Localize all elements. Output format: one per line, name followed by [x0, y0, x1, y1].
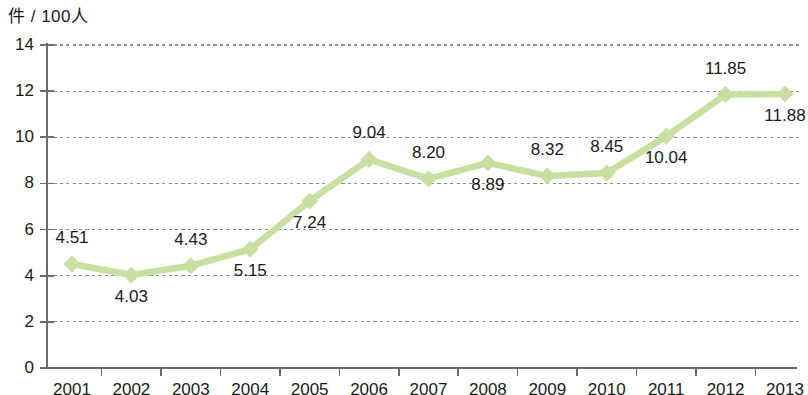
data-point-marker	[123, 267, 139, 283]
data-point-marker	[64, 256, 80, 272]
x-axis-tick-label: 2010	[577, 380, 637, 395]
chart-axes	[47, 43, 797, 368]
data-point-marker	[480, 155, 496, 171]
data-point-label: 5.15	[221, 261, 279, 281]
data-point-label: 4.43	[162, 230, 220, 250]
chart-plot-area	[0, 0, 808, 395]
data-point-marker	[777, 86, 793, 102]
data-point-marker	[421, 171, 437, 187]
y-axis-tick-label: 12	[0, 81, 34, 101]
x-axis-tick-label: 2013	[755, 380, 808, 395]
data-point-markers	[64, 86, 793, 283]
data-point-label: 4.03	[102, 287, 160, 307]
x-axis-tick-label: 2011	[636, 380, 696, 395]
x-axis-tick-label: 2012	[696, 380, 756, 395]
data-point-label: 10.04	[637, 148, 695, 168]
data-point-label: 8.32	[518, 140, 576, 160]
x-axis-tick-label: 2009	[517, 380, 577, 395]
x-axis-tick-label: 2003	[161, 380, 221, 395]
data-point-label: 4.51	[43, 228, 101, 248]
line-chart: 件 / 100人 02468101214 2001200220032004200…	[0, 0, 808, 395]
y-axis-tick-label: 10	[0, 127, 34, 147]
y-axis-tick-label: 6	[0, 220, 34, 240]
data-point-marker	[183, 258, 199, 274]
x-axis-tick-label: 2002	[101, 380, 161, 395]
y-axis-tick-label: 2	[0, 312, 34, 332]
x-axis-tick-label: 2008	[458, 380, 518, 395]
gridlines	[47, 45, 801, 322]
data-point-label: 11.88	[756, 106, 808, 126]
data-point-label: 7.24	[281, 213, 339, 233]
y-axis-tick-label: 4	[0, 266, 34, 286]
x-axis-tick-label: 2007	[399, 380, 459, 395]
data-point-label: 8.89	[459, 175, 517, 195]
data-point-label: 11.85	[697, 59, 755, 79]
x-axis-tick-label: 2001	[42, 380, 102, 395]
y-axis-tick-label: 14	[0, 35, 34, 55]
x-axis-tick-label: 2005	[280, 380, 340, 395]
data-point-label: 9.04	[340, 123, 398, 143]
axis-ticks	[40, 45, 755, 376]
y-axis-tick-label: 8	[0, 173, 34, 193]
x-axis-tick-label: 2006	[339, 380, 399, 395]
data-point-marker	[539, 168, 555, 184]
x-axis-tick-label: 2004	[220, 380, 280, 395]
data-point-label: 8.45	[578, 137, 636, 157]
y-axis-tick-label: 0	[0, 358, 34, 378]
data-point-label: 8.20	[400, 143, 458, 163]
